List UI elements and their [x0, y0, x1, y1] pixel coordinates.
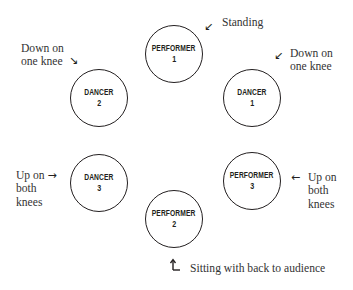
node-role-label: DANCER: [237, 88, 266, 98]
node-number-label: 3: [250, 181, 254, 191]
annotation-line: both: [308, 184, 337, 197]
node-performer-1: PERFORMER 1: [145, 25, 203, 83]
node-performer-2: PERFORMER 2: [145, 190, 203, 248]
annotation-performer-1: Standing: [222, 16, 263, 29]
annotation-performer-3: Up on both knees: [308, 171, 337, 211]
node-role-label: PERFORMER: [230, 171, 274, 181]
annotation-line: Down on: [21, 42, 64, 55]
node-role-label: PERFORMER: [152, 44, 196, 54]
arrow-down-right-icon: ↘: [69, 55, 78, 66]
node-role-label: PERFORMER: [152, 209, 196, 219]
annotation-line: Up on: [308, 171, 337, 184]
node-performer-3: PERFORMER 3: [223, 152, 281, 210]
annotation-dancer-1: Down on one knee: [290, 47, 333, 74]
annotation-line: both: [16, 182, 57, 195]
annotation-line: Down on: [290, 47, 333, 60]
annotation-line: knees: [16, 196, 57, 209]
arrow-up-turn-icon: [170, 258, 182, 272]
node-number-label: 1: [172, 54, 176, 64]
arrow-left-icon: ←: [291, 172, 300, 183]
annotation-performer-2: Sitting with back to audience: [190, 262, 325, 275]
annotation-dancer-3: Up on → both knees: [16, 169, 57, 209]
formation-diagram: PERFORMER 1 DANCER 2 DANCER 1 DANCER 3 P…: [0, 0, 353, 290]
node-dancer-2: DANCER 2: [70, 69, 128, 127]
node-dancer-1: DANCER 1: [223, 69, 281, 127]
node-number-label: 2: [172, 219, 176, 229]
node-role-label: DANCER: [84, 173, 113, 183]
node-dancer-3: DANCER 3: [70, 154, 128, 212]
annotation-dancer-2: Down on one knee: [21, 42, 64, 69]
node-number-label: 1: [250, 98, 254, 108]
annotation-line-text: Up on: [16, 169, 45, 182]
annotation-line: one knee: [21, 55, 64, 68]
annotation-line: one knee: [290, 60, 333, 73]
annotation-line: knees: [308, 198, 337, 211]
node-number-label: 3: [97, 183, 101, 193]
annotation-line: Up on →: [16, 169, 57, 182]
arrow-down-left-icon: ↙: [274, 50, 283, 61]
node-number-label: 2: [97, 98, 101, 108]
arrow-right-icon: →: [48, 169, 57, 182]
arrow-down-left-icon: ↙: [204, 21, 213, 32]
node-role-label: DANCER: [84, 88, 113, 98]
